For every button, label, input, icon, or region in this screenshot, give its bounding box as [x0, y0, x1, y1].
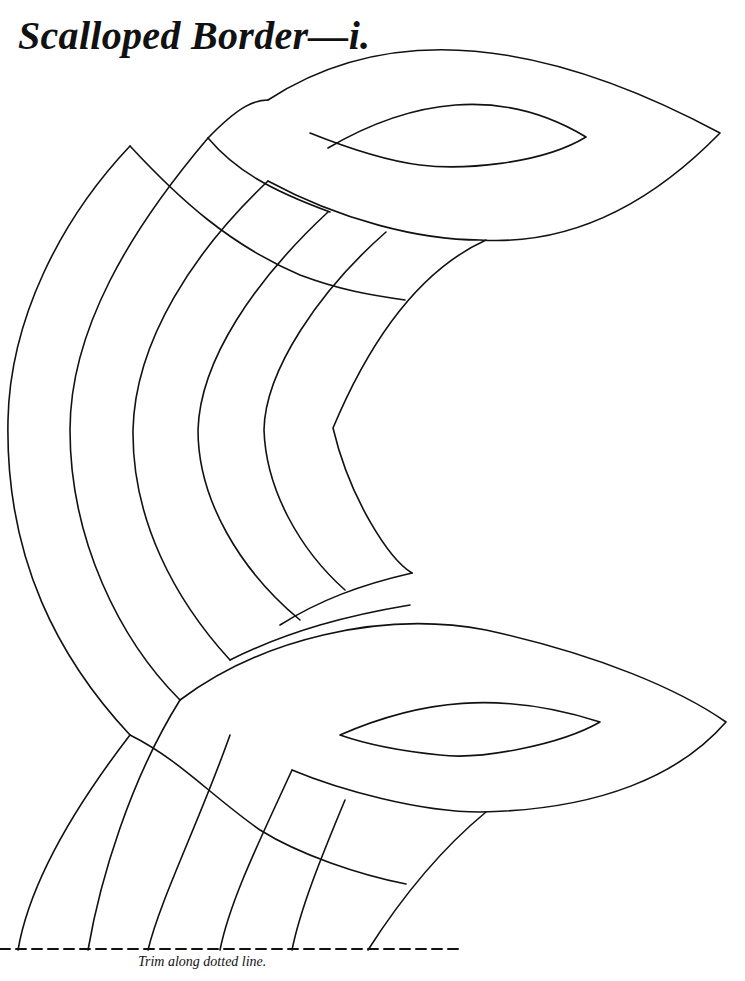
upper-leaf-shape — [208, 50, 720, 241]
trim-caption: Trim along dotted line. — [138, 954, 266, 970]
scalloped-border-template — [0, 0, 745, 981]
lower-leaf-shape — [180, 605, 726, 812]
arc-bands — [8, 138, 486, 735]
lower-crossbands — [130, 573, 412, 884]
